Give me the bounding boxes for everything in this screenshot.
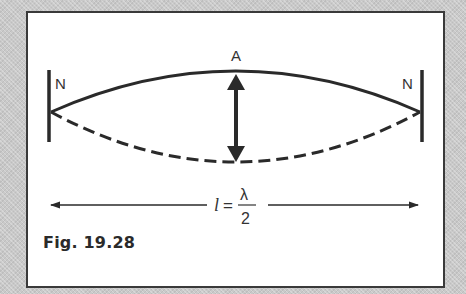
formula-denominator: 2 [241, 210, 250, 227]
figure-caption: Fig. 19.28 [43, 233, 135, 252]
equals-sign: = [223, 196, 233, 215]
formula-numerator: λ [240, 186, 248, 203]
antinode-amplitude-arrow [227, 74, 245, 162]
antinode-label: A [231, 47, 241, 64]
length-formula: l = λ 2 [214, 186, 256, 227]
length-symbol: l [214, 195, 219, 215]
node-label-right: N [402, 75, 413, 92]
node-label-left: N [55, 75, 66, 92]
